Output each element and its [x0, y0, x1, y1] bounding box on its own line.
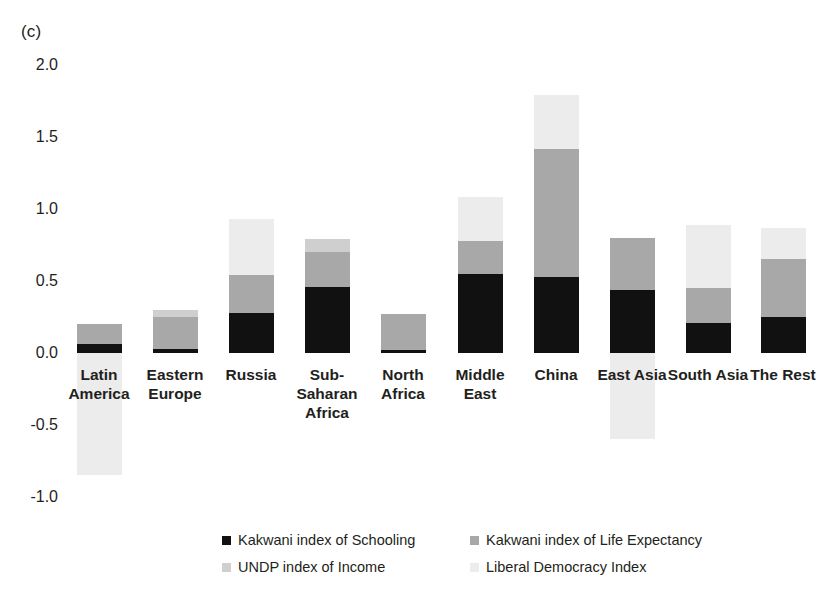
bar-group[interactable]	[229, 0, 274, 530]
legend-item[interactable]: UNDP index of Income	[222, 559, 385, 575]
bar-segment	[686, 323, 731, 353]
legend-label: Liberal Democracy Index	[486, 559, 646, 575]
chart-legend: Kakwani index of SchoolingKakwani index …	[0, 528, 805, 592]
bar-segment	[381, 314, 426, 350]
bar-group[interactable]	[458, 0, 503, 530]
bar-group[interactable]	[610, 0, 655, 530]
legend-label: UNDP index of Income	[238, 559, 385, 575]
x-axis-label: The Rest	[725, 365, 821, 384]
bar-segment	[534, 277, 579, 353]
legend-swatch-icon	[470, 536, 479, 545]
bar-group[interactable]	[534, 0, 579, 530]
legend-label: Kakwani index of Schooling	[238, 532, 415, 548]
bar-segment	[153, 349, 198, 353]
bar-segment	[686, 225, 731, 288]
bar-segment	[305, 252, 350, 287]
bar-segment	[77, 324, 122, 344]
legend-swatch-icon	[470, 563, 479, 572]
bar-segment	[761, 259, 806, 317]
bar-group[interactable]	[77, 0, 122, 530]
bar-segment	[458, 241, 503, 274]
bar-segment	[761, 228, 806, 260]
legend-item[interactable]: Liberal Democracy Index	[470, 559, 646, 575]
bar-segment	[229, 313, 274, 353]
bar-group[interactable]	[305, 0, 350, 530]
bar-segment	[305, 287, 350, 353]
bar-segment	[381, 350, 426, 353]
legend-label: Kakwani index of Life Expectancy	[486, 532, 702, 548]
legend-swatch-icon	[222, 536, 231, 545]
bar-segment	[229, 219, 274, 275]
bars-layer	[0, 0, 805, 530]
plot-area: 2.01.51.00.50.0-0.5-1.0 Latin AmericaEas…	[0, 0, 805, 530]
legend-swatch-icon	[222, 563, 231, 572]
bar-group[interactable]	[381, 0, 426, 530]
bar-segment	[610, 290, 655, 353]
bar-segment	[458, 274, 503, 353]
bar-segment	[77, 344, 122, 353]
bar-segment	[534, 149, 579, 277]
legend-item[interactable]: Kakwani index of Schooling	[222, 532, 415, 548]
bar-group[interactable]	[686, 0, 731, 530]
bar-segment	[458, 197, 503, 240]
bar-segment	[761, 317, 806, 353]
bar-segment	[610, 238, 655, 290]
legend-item[interactable]: Kakwani index of Life Expectancy	[470, 532, 702, 548]
bar-segment	[153, 310, 198, 317]
bar-group[interactable]	[153, 0, 198, 530]
bar-segment	[686, 288, 731, 323]
bar-segment	[153, 317, 198, 349]
bar-group[interactable]	[761, 0, 806, 530]
bar-segment	[534, 95, 579, 148]
bar-segment	[305, 239, 350, 252]
bar-segment	[229, 275, 274, 312]
